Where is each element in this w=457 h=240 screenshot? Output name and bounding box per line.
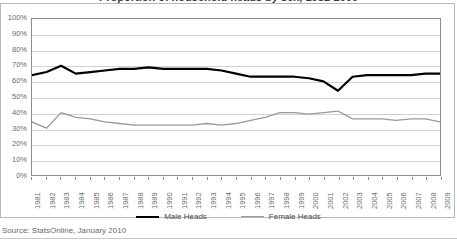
x-axis-tick [31, 177, 32, 180]
legend-line-male-icon [136, 216, 159, 218]
source-note: Source: StatsOnline, January 2010 [2, 226, 126, 235]
x-axis-tick-label: 1996 [254, 192, 262, 209]
x-axis-tick-label: 2000 [312, 192, 320, 209]
x-axis-tick-label: 1987 [122, 192, 130, 209]
x-axis-tick-label: 1982 [49, 192, 57, 209]
x-axis-tick [119, 177, 120, 180]
x-axis-tick-label: 2001 [327, 192, 335, 209]
x-axis-tick [148, 177, 149, 180]
x-axis-tick-label: 1993 [210, 192, 218, 209]
x-axis-tick [339, 177, 340, 180]
x-axis-tick [236, 177, 237, 180]
x-axis-tick-label: 1984 [78, 192, 86, 209]
y-axis-tick-label: 60% [12, 77, 27, 85]
x-axis-tick-label: 2004 [371, 192, 379, 209]
legend-label-male: Male Heads [164, 212, 207, 221]
x-axis-tick [441, 177, 442, 180]
x-axis-tick-label: 2002 [342, 192, 350, 209]
x-axis-tick-label: 1997 [268, 192, 276, 209]
x-axis-tick [46, 177, 47, 180]
x-axis-tick [280, 177, 281, 180]
x-axis-tick [368, 177, 369, 180]
x-axis-tick [192, 177, 193, 180]
x-axis-tick [397, 177, 398, 180]
chart-legend: Male Heads Female Heads [1, 210, 456, 223]
x-axis-tick [75, 177, 76, 180]
x-axis-tick [251, 177, 252, 180]
x-axis-tick [163, 177, 164, 180]
y-axis-tick-label: 40% [12, 109, 27, 117]
x-axis-tick-label: 1981 [34, 192, 42, 209]
x-axis-tick [221, 177, 222, 180]
x-axis-tick-label: 2007 [415, 192, 423, 209]
x-axis-tick [207, 177, 208, 180]
x-axis-tick-label: 2006 [400, 192, 408, 209]
x-axis-tick-label: 1990 [166, 192, 174, 209]
x-axis-tick [60, 177, 61, 180]
x-axis-tick [353, 177, 354, 180]
x-axis-tick [177, 177, 178, 180]
series-line-female-heads [32, 111, 440, 128]
x-axis-tick-label: 1985 [93, 192, 101, 209]
legend-line-female-icon [241, 216, 264, 217]
y-axis-tick-label: 20% [12, 140, 27, 148]
y-axis-tick-label: 90% [12, 30, 27, 38]
x-axis-labels: 1981198219831984198519861987198819891990… [31, 177, 441, 211]
y-axis-tick-label: 80% [12, 46, 27, 54]
x-axis-tick-label: 2008 [430, 192, 438, 209]
x-axis-tick [295, 177, 296, 180]
y-axis-tick-label: 100% [8, 14, 27, 22]
x-axis-tick [324, 177, 325, 180]
x-axis-tick-label: 2005 [386, 192, 394, 209]
x-axis-tick-label: 1989 [151, 192, 159, 209]
x-axis-tick [104, 177, 105, 180]
x-axis-tick-label: 1998 [283, 192, 291, 209]
y-axis-labels: 100%90%80%70%60%50%40%30%20%10%0% [1, 18, 29, 176]
legend-item-male: Male Heads [136, 212, 207, 221]
x-axis-tick [90, 177, 91, 180]
x-axis-tick-label: 1991 [181, 192, 189, 209]
x-axis-tick [265, 177, 266, 180]
plot-area [31, 18, 441, 176]
legend-item-female: Female Heads [241, 212, 321, 221]
x-axis-tick-label: 1994 [225, 192, 233, 209]
x-axis-tick-label: 2003 [356, 192, 364, 209]
y-axis-tick-label: 50% [12, 93, 27, 101]
y-axis-tick-label: 70% [12, 61, 27, 69]
legend-label-female: Female Heads [269, 212, 321, 221]
x-axis-tick-label: 1995 [239, 192, 247, 209]
y-axis-tick-label: 10% [12, 156, 27, 164]
x-axis-tick [309, 177, 310, 180]
x-axis-tick-label: 1999 [298, 192, 306, 209]
x-axis-tick-label: 1988 [137, 192, 145, 209]
x-axis-tick [134, 177, 135, 180]
x-axis-tick [412, 177, 413, 180]
x-axis-tick [382, 177, 383, 180]
series-lines [32, 19, 440, 175]
series-line-male-heads [32, 66, 440, 91]
x-axis-tick-label: 1983 [63, 192, 71, 209]
footer-divider [0, 238, 457, 239]
chart-screenshot: Proportion of household heads by sex, 19… [0, 0, 457, 240]
chart-frame: 100%90%80%70%60%50%40%30%20%10%0% 198119… [0, 3, 455, 218]
y-axis-tick-label: 0% [16, 172, 27, 180]
x-axis-tick-label: 2009 [444, 192, 452, 209]
x-axis-tick-label: 1986 [107, 192, 115, 209]
x-axis-tick-label: 1992 [195, 192, 203, 209]
y-axis-tick-label: 30% [12, 125, 27, 133]
x-axis-tick [426, 177, 427, 180]
